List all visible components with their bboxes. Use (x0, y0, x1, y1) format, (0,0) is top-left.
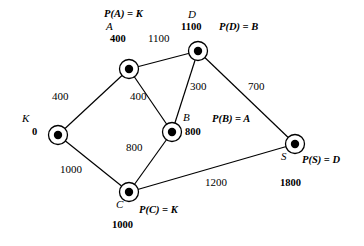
node-label-d: D (188, 9, 196, 20)
edge-weight-k-a: 400 (52, 91, 69, 102)
node-distance-k: 0 (32, 127, 37, 138)
node-distance-b: 800 (185, 127, 201, 138)
node-distance-d: 1100 (181, 22, 201, 33)
node-predecessor-b: P(B) = A (212, 114, 250, 125)
node-label-a: A (106, 21, 113, 32)
node-layer (49, 42, 305, 202)
node-dot-d[interactable] (194, 47, 202, 55)
edge-d-s (198, 51, 295, 144)
edge-weight-b-c: 800 (126, 142, 143, 153)
node-label-s: S (281, 151, 287, 162)
node-dot-s[interactable] (291, 140, 299, 148)
edge-a-d (129, 51, 198, 69)
node-distance-s: 1800 (280, 178, 301, 189)
node-dot-c[interactable] (125, 188, 133, 196)
edge-layer (58, 51, 295, 192)
node-dot-k[interactable] (54, 131, 62, 139)
node-label-c: C (116, 199, 123, 210)
graph-svg (0, 0, 364, 246)
edge-k-a (58, 69, 129, 135)
edge-weight-c-s: 1200 (205, 177, 227, 188)
node-predecessor-d: P(D) = B (219, 22, 258, 33)
node-label-b: B (183, 112, 190, 123)
edge-weight-k-c: 1000 (60, 164, 82, 175)
node-dot-a[interactable] (125, 65, 133, 73)
node-dot-b[interactable] (168, 128, 176, 136)
node-predecessor-s: P(S) = D (302, 155, 340, 166)
node-predecessor-c: P(C) = K (139, 205, 178, 216)
edge-weight-a-b: 400 (130, 91, 147, 102)
node-distance-a: 400 (110, 34, 126, 45)
diagram-canvas: K0A400P(A) = KD1100P(D) = BB800P(B) = AC… (0, 0, 364, 246)
edge-weight-a-d: 1100 (148, 33, 170, 44)
node-distance-c: 1000 (112, 220, 133, 231)
edge-weight-b-d: 300 (190, 81, 207, 92)
node-label-k: K (22, 113, 29, 124)
node-predecessor-a: P(A) = K (104, 9, 143, 20)
edge-weight-d-s: 700 (248, 81, 265, 92)
